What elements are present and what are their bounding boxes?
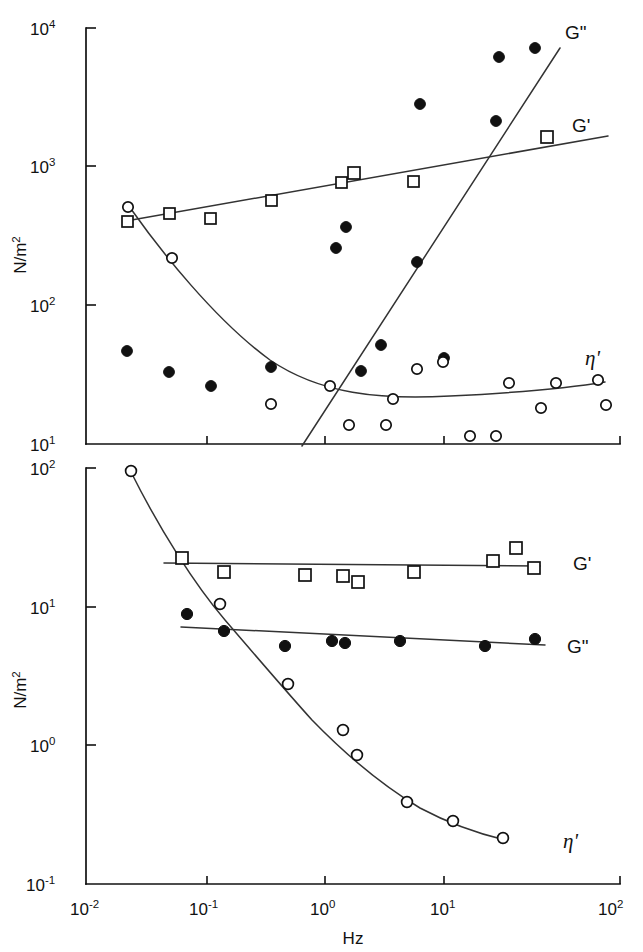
data-marker	[299, 569, 311, 581]
upper-ytick-label-1e3: 103	[30, 156, 55, 177]
data-marker	[388, 394, 398, 404]
upper-ytick-label-1e2: 102	[30, 295, 55, 316]
figure-root: 104 103 102 101 N/m2	[0, 0, 643, 952]
data-marker	[536, 403, 546, 413]
lower-series-label-eta: η'	[563, 829, 578, 853]
data-marker	[206, 381, 217, 392]
upper-ytick-exp-1e4: 4	[49, 18, 56, 30]
data-marker	[394, 635, 405, 646]
data-marker	[408, 566, 420, 578]
data-marker	[504, 378, 514, 388]
lower-eta-markers	[126, 466, 509, 844]
data-marker	[381, 420, 391, 430]
data-marker	[331, 243, 342, 254]
scientific-figure: 104 103 102 101 N/m2	[0, 0, 643, 952]
upper-gdoubleprime-markers	[122, 43, 541, 392]
lower-panel-axes	[86, 468, 620, 884]
data-marker	[415, 99, 426, 110]
upper-series-label-gprime: G'	[572, 115, 590, 136]
upper-panel-axes	[86, 28, 620, 444]
data-marker	[164, 367, 175, 378]
lower-xtick-label-1e1: 101	[430, 898, 455, 919]
data-marker	[352, 576, 364, 588]
upper-gprime-markers	[122, 131, 553, 227]
upper-y-axis-title: N/m2	[10, 236, 30, 274]
upper-ytick-label-1e1: 101	[30, 434, 55, 455]
data-marker	[279, 640, 290, 651]
data-marker	[337, 570, 349, 582]
lower-ytick-label-1e-1: 10-1	[26, 874, 55, 895]
lower-y-axis-title: N/m2	[10, 671, 30, 709]
data-marker	[465, 431, 475, 441]
lower-gdoubleprime-fit-line	[181, 627, 545, 645]
data-marker	[530, 43, 541, 54]
x-axis-title: Hz	[343, 929, 364, 948]
data-marker	[266, 399, 276, 409]
data-marker	[593, 375, 603, 385]
data-marker	[356, 366, 367, 377]
data-marker	[487, 555, 499, 567]
data-marker	[266, 195, 277, 206]
upper-eta-fit-curve	[131, 209, 605, 397]
data-marker	[348, 167, 360, 179]
data-marker	[491, 116, 502, 127]
data-marker	[181, 608, 192, 619]
data-marker	[376, 340, 387, 351]
upper-eta-markers	[123, 202, 611, 441]
lower-panel: 102 101 100 10-1 N/m2 10-2 10-1 100 101 …	[10, 458, 623, 948]
upper-gprime-fit-line	[126, 136, 608, 221]
upper-y-tick-labels: 104 103 102 101	[30, 18, 56, 455]
data-marker	[122, 216, 133, 227]
data-marker	[438, 357, 448, 367]
data-marker	[218, 566, 230, 578]
lower-x-tick-labels: 10-2 10-1 100 101 102	[70, 898, 623, 919]
data-marker	[448, 816, 459, 827]
lower-ytick-label-1e0: 100	[30, 735, 55, 756]
lower-xtick-label-1e-1: 10-1	[189, 898, 218, 919]
data-marker	[218, 625, 229, 636]
lower-eta-fit-curve	[131, 472, 505, 840]
data-marker	[528, 562, 540, 574]
lower-xtick-label-1e2: 102	[598, 898, 623, 919]
data-marker	[344, 420, 354, 430]
upper-panel: 104 103 102 101 N/m2	[10, 18, 620, 455]
data-marker	[164, 208, 175, 219]
data-marker	[339, 637, 350, 648]
data-marker	[176, 552, 188, 564]
lower-series-label-gprime: G'	[573, 553, 591, 574]
data-marker	[510, 542, 522, 554]
data-marker	[215, 599, 226, 610]
data-marker	[412, 364, 422, 374]
data-marker	[494, 52, 505, 63]
upper-series-label-eta: η'	[585, 346, 600, 370]
upper-series-label-gdoubleprime: G"	[565, 22, 587, 43]
data-marker	[529, 633, 540, 644]
lower-xtick-label-1e0: 100	[310, 898, 335, 919]
upper-ytick-label-1e4: 104	[30, 18, 56, 39]
data-marker	[123, 202, 133, 212]
data-marker	[341, 222, 352, 233]
lower-y-tick-labels: 102 101 100 10-1	[26, 458, 55, 895]
data-marker	[412, 257, 423, 268]
data-marker	[498, 833, 509, 844]
data-marker	[266, 362, 277, 373]
data-marker	[408, 176, 419, 187]
data-marker	[402, 797, 413, 808]
data-marker	[338, 725, 349, 736]
lower-series-label-gdoubleprime: G"	[567, 636, 589, 657]
data-marker	[352, 750, 363, 761]
lower-ytick-label-1e1: 101	[30, 597, 55, 618]
data-marker	[167, 253, 177, 263]
data-marker	[126, 466, 137, 477]
data-marker	[491, 431, 501, 441]
data-marker	[601, 400, 611, 410]
lower-ytick-label-1e2: 102	[30, 458, 55, 479]
data-marker	[325, 381, 335, 391]
data-marker	[205, 213, 216, 224]
data-marker	[326, 635, 337, 646]
data-marker	[541, 131, 553, 143]
data-marker	[336, 177, 347, 188]
data-marker	[122, 346, 133, 357]
data-marker	[283, 679, 294, 690]
data-marker	[551, 378, 561, 388]
